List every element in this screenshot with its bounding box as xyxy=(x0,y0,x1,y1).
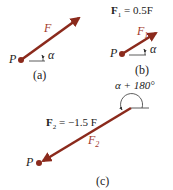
angle-arc xyxy=(42,55,43,61)
angle-label-alpha: α xyxy=(48,49,54,61)
caption-b: (b) xyxy=(135,64,149,76)
equation-lhs-sub: 1 xyxy=(118,11,122,19)
point-p xyxy=(18,57,24,63)
equation-rhs: = −1.5 F xyxy=(59,116,97,128)
angle-arc xyxy=(144,49,145,55)
equation-lhs-sub: 2 xyxy=(53,123,57,131)
point-p xyxy=(119,51,125,57)
equation-rhs: = 0.5F xyxy=(124,4,153,16)
vector-label-f1: F1 xyxy=(137,25,148,40)
angle-label-alpha: α xyxy=(150,43,156,55)
point-label-p: P xyxy=(9,53,16,65)
vector-subscript: 1 xyxy=(144,31,148,40)
angle-arc xyxy=(121,94,143,110)
vector-label-f2: F2 xyxy=(88,134,99,149)
equation-f2: F2 = −1.5 F xyxy=(46,117,97,131)
angle-label-alpha-plus-180: α + 180° xyxy=(115,80,155,91)
vector-label-f: F xyxy=(44,22,51,34)
caption-a: (a) xyxy=(33,69,46,81)
equation-lhs: F xyxy=(111,4,118,16)
point-p xyxy=(36,160,42,166)
point-label-p: P xyxy=(110,47,117,59)
equation-lhs: F xyxy=(46,116,53,128)
equation-f1: F1 = 0.5F xyxy=(111,5,153,19)
vector-subscript: 2 xyxy=(95,140,99,149)
caption-c: (c) xyxy=(96,175,109,187)
point-label-p: P xyxy=(26,156,33,168)
